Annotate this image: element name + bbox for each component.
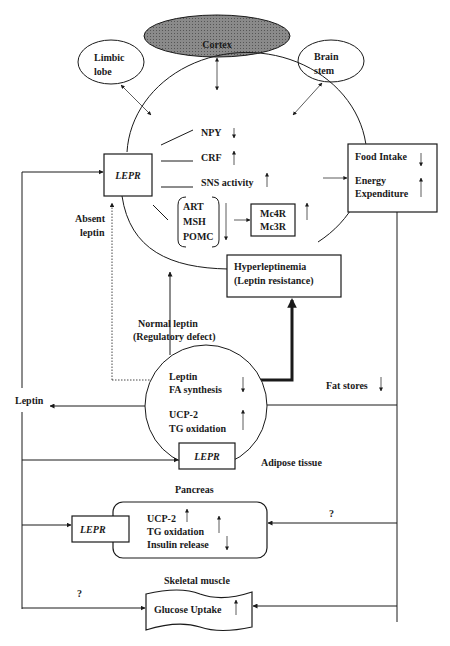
spoke-group [153,205,168,220]
sns-label: SNS activity [201,177,254,188]
limbic-label-2: lobe [94,66,112,77]
hyper-label-1: Hyperleptinemia [234,261,306,272]
adipose-ucp: UCP-2 [169,409,198,420]
leptin-pathway-diagram: Cortex Limbic lobe Brain stem LEPR NPY C… [0,0,450,646]
energy-label-1: Energy [355,175,386,186]
mc4r-mc3r-box: Mc4R Mc3R [251,204,295,236]
pancreas-ucp: UCP-2 [147,513,176,524]
crf-label: CRF [201,152,222,163]
food-intake-box: Food Intake Energy Expenditure [348,144,437,212]
adipose-tissue-label: Adipose tissue [261,457,322,468]
art-msh-pomc-group: ART MSH POMC [178,197,219,247]
mc3r-label: Mc3R [260,221,287,232]
pancreas-label: Pancreas [175,484,214,495]
food-intake-label: Food Intake [355,151,408,162]
question-pancreas: ? [329,508,334,519]
pancreas-insulin: Insulin release [147,539,209,550]
leptin-out-label: Leptin [15,395,44,406]
normal-label-1: Normal leptin [138,318,198,329]
question-muscle: ? [77,588,82,599]
absent-label-2: leptin [80,227,105,238]
lepr-pancreas-box: LEPR [72,516,129,542]
pancreas-tg: TG oxidation [147,526,204,537]
absent-label-1: Absent [75,213,106,224]
msh-label: MSH [183,216,206,227]
lepr-adipose-label: LEPR [193,451,220,462]
lepr-adipose-box: LEPR [179,443,235,469]
energy-label-2: Expenditure [355,188,409,199]
fat-stores-label: Fat stores [326,380,368,391]
lepr-hypothalamus-box: LEPR [104,154,152,196]
brain-stem-node: Brain stem [298,40,364,82]
brainstem-label-1: Brain [314,51,339,62]
npy-label: NPY [201,127,222,138]
hyper-label-2: (Leptin resistance) [234,275,314,287]
pomc-label: POMC [183,231,214,242]
hyperleptinemia-box: Hyperleptinemia (Leptin resistance) [227,255,341,297]
cortex-label: Cortex [202,39,231,50]
lepr-hypo-label: LEPR [114,170,141,181]
normal-label-2: (Regulatory defect) [133,331,215,343]
mc4r-label: Mc4R [260,208,287,219]
glucose-label: Glucose Uptake [154,604,222,615]
thick-hyper-arrow [259,300,292,380]
adipose-tg: TG oxidation [169,423,226,434]
skeletal-label: Skeletal muscle [164,575,230,586]
cortex-node: Cortex [144,15,290,57]
adipose-leptin: Leptin [169,371,198,382]
adipose-fa: FA synthesis [169,384,222,395]
brainstem-arrow [293,83,322,115]
limbic-lobe-node: Limbic lobe [78,40,144,84]
limbic-label-1: Limbic [94,52,125,63]
brainstem-label-2: stem [314,65,335,76]
art-label: ART [183,201,204,212]
lepr-pancreas-label: LEPR [79,524,106,535]
spoke-npy [161,130,193,145]
